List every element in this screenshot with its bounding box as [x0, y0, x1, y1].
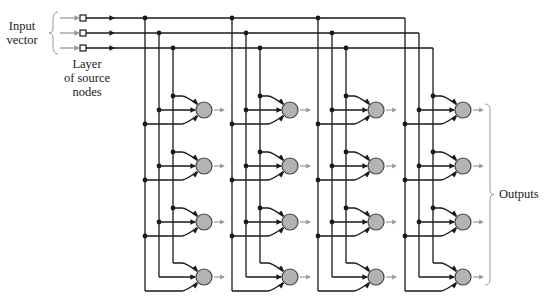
weight-branch [173, 96, 197, 104]
branch-arrow-icon [190, 163, 196, 169]
branch-arrow-icon [276, 107, 282, 113]
outputs-label: Outputs [499, 187, 539, 201]
junction-dot [417, 220, 422, 225]
junction-dot [258, 206, 263, 211]
output-arrow-icon [392, 164, 397, 169]
neuron-node [368, 214, 384, 230]
source-layer-label-line3: nodes [58, 85, 116, 99]
input-brace [49, 12, 58, 54]
junction-dot [258, 94, 263, 99]
junction-dot [143, 178, 148, 183]
output-arrow-icon [220, 220, 225, 225]
junction-dot [330, 31, 335, 36]
junction-dot [157, 31, 162, 36]
weight-branch [232, 228, 283, 236]
output-arrow-icon [479, 275, 484, 280]
neuron-node [455, 214, 471, 230]
output-arrow-icon [392, 108, 397, 113]
neuron-node [455, 102, 471, 118]
branch-arrow-icon [190, 274, 196, 280]
weight-branch [405, 228, 456, 236]
neuron-node [368, 158, 384, 174]
outputs-brace [485, 104, 494, 285]
output-arrow-icon [392, 275, 397, 280]
bus-arrow-icon [109, 15, 115, 21]
junction-dot [316, 16, 321, 21]
junction-dot [171, 206, 176, 211]
branch-arrow-icon [449, 219, 455, 225]
output-arrow-icon [220, 164, 225, 169]
branch-arrow-icon [449, 163, 455, 169]
output-arrow-icon [392, 220, 397, 225]
neuron-node [282, 158, 298, 174]
output-arrow-icon [479, 164, 484, 169]
neuron-node [196, 214, 212, 230]
branch-arrow-icon [190, 219, 196, 225]
junction-dot [316, 178, 321, 183]
junction-dot [230, 122, 235, 127]
branch-arrow-icon [449, 274, 455, 280]
input-arrow-icon [74, 30, 80, 36]
weight-branch [318, 228, 369, 236]
weight-branch [318, 283, 369, 291]
neuron-node [455, 158, 471, 174]
junction-dot [431, 150, 436, 155]
weight-branch [232, 283, 283, 291]
junction-dot [330, 220, 335, 225]
junction-dot [431, 94, 436, 99]
bus-arrow-icon [109, 45, 115, 51]
source-layer-label-line1: Layer [58, 57, 116, 71]
output-arrow-icon [306, 275, 311, 280]
junction-dot [244, 31, 249, 36]
branch-arrow-icon [276, 163, 282, 169]
output-arrow-icon [220, 275, 225, 280]
output-arrow-icon [306, 220, 311, 225]
junction-dot [171, 94, 176, 99]
input-arrow-icon [74, 15, 80, 21]
weight-branch [232, 172, 283, 180]
output-arrow-icon [479, 220, 484, 225]
output-arrow-icon [306, 108, 311, 113]
junction-dot [157, 164, 162, 169]
junction-dot [316, 122, 321, 127]
output-arrow-icon [306, 164, 311, 169]
weight-branch [145, 172, 197, 180]
branch-arrow-icon [276, 219, 282, 225]
junction-dot [316, 234, 321, 239]
weight-branch [173, 208, 197, 216]
weight-branch [173, 152, 197, 160]
junction-dot [403, 234, 408, 239]
weight-branch [405, 283, 456, 291]
junction-dot [258, 46, 263, 51]
input-arrow-icon [74, 45, 80, 51]
junction-dot [157, 108, 162, 113]
source-layer-label: Layer of source nodes [58, 57, 116, 99]
junction-dot [330, 108, 335, 113]
output-arrow-icon [479, 108, 484, 113]
junction-dot [143, 16, 148, 21]
weight-branch [232, 116, 283, 124]
junction-dot [244, 164, 249, 169]
junction-dot [344, 150, 349, 155]
junction-dot [417, 164, 422, 169]
source-node [80, 45, 86, 51]
neuron-node [196, 269, 212, 285]
junction-dot [403, 122, 408, 127]
source-layer-label-line2: of source [58, 71, 116, 85]
weight-branch [145, 116, 197, 124]
junction-dot [143, 122, 148, 127]
junction-dot [230, 178, 235, 183]
input-vector-label: Input vector [0, 19, 44, 47]
bus-arrow-icon [109, 30, 115, 36]
neural-network-diagram: Input vector Layer of source nodes Outpu… [0, 0, 549, 302]
junction-dot [330, 164, 335, 169]
junction-dot [171, 46, 176, 51]
branch-arrow-icon [362, 219, 368, 225]
neuron-node [455, 269, 471, 285]
junction-dot [344, 94, 349, 99]
branch-arrow-icon [276, 274, 282, 280]
weight-branch [405, 172, 456, 180]
weight-branch [173, 263, 197, 271]
branch-arrow-icon [362, 274, 368, 280]
weight-branch [405, 116, 456, 124]
